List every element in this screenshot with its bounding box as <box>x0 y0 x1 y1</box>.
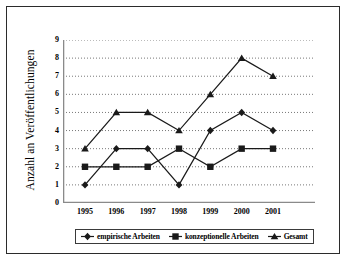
y-axis-tick-label: 0 <box>55 199 59 207</box>
legend-item[interactable]: konzeptionelle Arbeiten <box>169 232 259 241</box>
series-line <box>85 58 273 149</box>
y-axis-tick-label: 1 <box>55 181 59 189</box>
legend-item[interactable]: empirische Arbeiten <box>81 232 160 241</box>
x-axis-tick-label: 2000 <box>234 207 250 216</box>
data-point-marker <box>207 127 214 134</box>
data-point-marker <box>238 109 245 116</box>
y-axis-title: Anzahl an Veröffentlichungen <box>21 35 39 205</box>
legend-item-label: konzeptionelle Arbeiten <box>185 232 259 241</box>
legend-marker-triangle-icon <box>268 232 281 241</box>
y-axis-tick-label: 4 <box>55 127 59 135</box>
plot-svg <box>63 40 315 203</box>
data-point-marker <box>238 145 244 151</box>
y-axis-tick-label: 7 <box>55 72 59 80</box>
data-point-marker <box>176 145 182 151</box>
legend-marker-square-icon <box>169 232 182 241</box>
plot-area: 0123456789 <box>63 40 315 203</box>
y-axis-tick-label: 3 <box>55 145 59 153</box>
x-axis-tick-label: 1997 <box>140 207 156 216</box>
legend-item-label: Gesamt <box>284 232 308 241</box>
data-point-marker <box>144 164 150 170</box>
data-point-marker <box>172 233 178 239</box>
data-point-marker <box>207 164 213 170</box>
x-axis-tick-label: 1998 <box>171 207 187 216</box>
legend-item[interactable]: Gesamt <box>268 232 308 241</box>
data-point-marker <box>84 233 91 240</box>
x-axis-tick-label: 1999 <box>202 207 218 216</box>
data-point-marker <box>82 164 88 170</box>
x-axis-tick-label: 1996 <box>108 207 124 216</box>
x-axis-tick-label: 1995 <box>77 207 93 216</box>
x-axis-tick-labels: 1995199619971998199920002001 <box>63 207 315 221</box>
x-axis-tick-label: 2001 <box>265 207 281 216</box>
data-point-marker <box>270 145 276 151</box>
y-axis-tick-label: 5 <box>55 108 59 116</box>
y-axis-tick-label: 2 <box>55 163 59 171</box>
y-axis-tick-label: 9 <box>55 36 59 44</box>
chart-legend: empirische Arbeitenkonzeptionelle Arbeit… <box>75 229 314 244</box>
data-point-marker <box>270 127 277 134</box>
data-point-marker <box>113 164 119 170</box>
legend-marker-diamond-icon <box>81 232 94 241</box>
y-axis-tick-label: 6 <box>55 90 59 98</box>
y-axis-title-text: Anzahl an Veröffentlichungen <box>24 50 36 191</box>
data-point-marker <box>238 55 246 61</box>
y-axis-tick-label: 8 <box>55 54 59 62</box>
chart-frame: Anzahl an Veröffentlichungen 0123456789 … <box>6 6 340 254</box>
legend-item-label: empirische Arbeiten <box>97 232 160 241</box>
chart-figure: Anzahl an Veröffentlichungen 0123456789 … <box>0 0 346 260</box>
